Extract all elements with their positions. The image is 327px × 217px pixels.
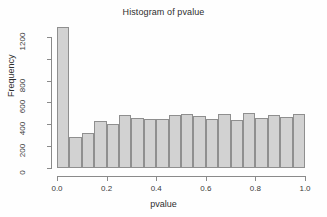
- x-axis-title: pvalue: [0, 199, 327, 209]
- x-tick: [206, 176, 207, 181]
- x-axis-line: [57, 176, 305, 177]
- x-tick-label: 0.2: [101, 184, 112, 193]
- x-tick-label: 0.0: [51, 184, 62, 193]
- x-tick-label: 1.0: [299, 184, 310, 193]
- histogram-figure: Histogram of pvalue 02004006008001200 Fr…: [0, 0, 327, 217]
- x-tick: [156, 176, 157, 181]
- x-tick: [305, 176, 306, 181]
- x-tick: [107, 176, 108, 181]
- x-tick: [57, 176, 58, 181]
- x-tick-label: 0.6: [200, 184, 211, 193]
- x-axis: 0.00.20.40.60.81.0 pvalue: [0, 0, 327, 217]
- x-tick-label: 0.8: [250, 184, 261, 193]
- x-tick: [255, 176, 256, 181]
- x-tick-label: 0.4: [151, 184, 162, 193]
